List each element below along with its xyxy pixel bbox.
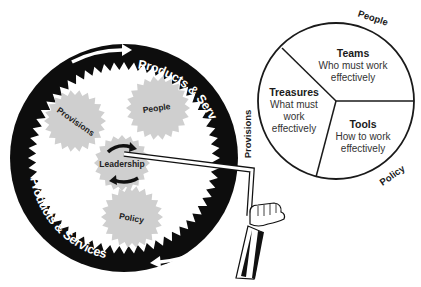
segment-text: Who must work: [319, 60, 389, 71]
hand-fist-icon: [236, 203, 285, 279]
pie-chart: Teams Who must work effectively Treasure…: [242, 8, 414, 188]
outer-label-provisions: Provisions: [242, 110, 253, 159]
outer-label-people: People: [357, 8, 390, 28]
segment-title-tools: Tools: [349, 118, 376, 130]
segment-text: effectively: [272, 123, 316, 134]
segment-text: effectively: [341, 143, 385, 154]
gear-label-leadership: Leadership: [99, 159, 144, 169]
segment-text: work: [282, 111, 305, 122]
segment-text: What must: [270, 99, 318, 110]
diagram-canvas: Products & Services Products & Services …: [0, 0, 421, 287]
segment-text: How to work: [335, 131, 391, 142]
outer-label-policy: Policy: [377, 162, 407, 187]
segment-title-treasures: Treasures: [269, 86, 319, 98]
segment-title-teams: Teams: [337, 47, 370, 59]
segment-text: effectively: [331, 72, 375, 83]
